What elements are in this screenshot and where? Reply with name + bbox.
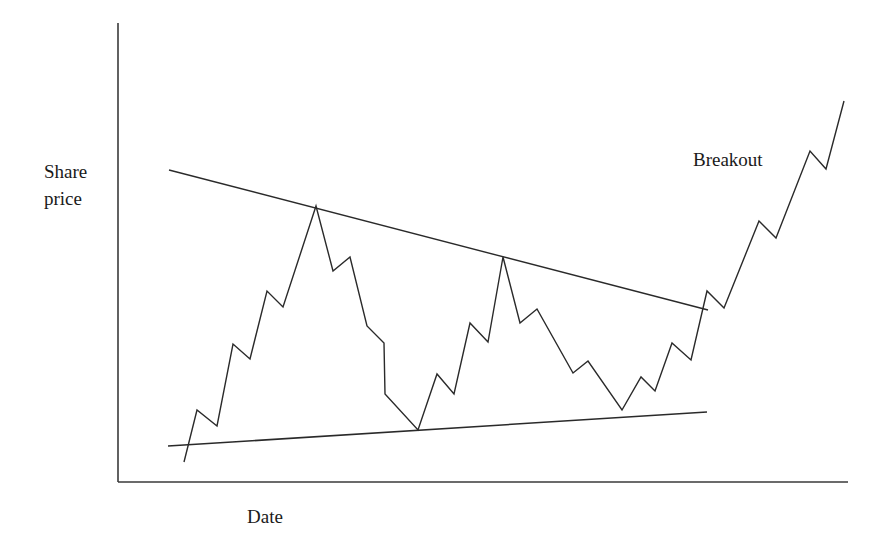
chart: Share price Date Breakout [0, 0, 896, 553]
y-axis-label: Share price [44, 158, 87, 212]
upper-trendline [169, 170, 708, 310]
lower-trendline [168, 412, 707, 446]
x-axis-label: Date [247, 503, 283, 530]
y-axis-label-line-1: Share [44, 158, 87, 185]
chart-plot-area [0, 0, 896, 553]
y-axis-label-line-2: price [44, 185, 87, 212]
breakout-annotation: Breakout [693, 146, 763, 173]
